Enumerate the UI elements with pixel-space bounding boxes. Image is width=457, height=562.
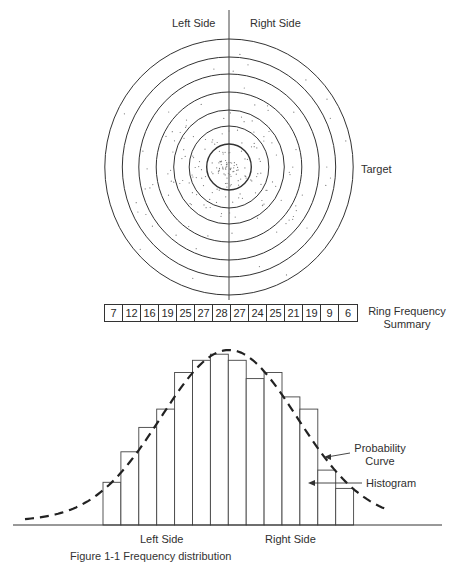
probability-label-line1: Probability: [350, 442, 410, 455]
histogram-bar: [157, 409, 175, 525]
histogram-bar: [175, 373, 193, 526]
bottom-left-side-label: Left Side: [140, 533, 183, 546]
histogram-bar: [336, 488, 354, 525]
histogram-bar: [264, 373, 282, 526]
histogram-bar: [103, 482, 121, 525]
probability-curve-label: Probability Curve: [350, 442, 410, 468]
figure-caption: Figure 1-1 Frequency distribution: [70, 550, 231, 562]
histogram-bar: [300, 409, 318, 525]
bottom-right-side-label: Right Side: [265, 533, 316, 546]
histogram-bar: [318, 470, 336, 525]
histogram-bars: [103, 354, 354, 525]
histogram-label: Histogram: [366, 477, 416, 490]
histogram-bar: [210, 354, 228, 525]
histogram-bar: [193, 360, 211, 525]
histogram-bar: [246, 379, 264, 525]
histogram-bar: [228, 360, 246, 525]
histogram-bar: [139, 427, 157, 525]
probability-label-line2: Curve: [350, 455, 410, 468]
